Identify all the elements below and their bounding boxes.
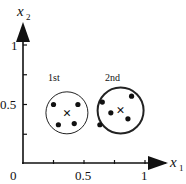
data-point — [100, 100, 105, 105]
y-tick-label-1: 1 — [11, 38, 18, 53]
data-point — [97, 122, 102, 127]
data-point — [72, 121, 77, 126]
centroid-marker-icon: × — [63, 105, 72, 121]
cluster-label-2nd: 2nd — [105, 72, 120, 83]
data-point — [56, 122, 61, 127]
data-point — [75, 102, 80, 107]
y-tick-label-0.5: 0.5 — [0, 97, 16, 112]
data-point — [51, 102, 56, 107]
centroid-marker-icon: × — [116, 102, 125, 118]
x-axis-arrow-icon — [148, 156, 168, 170]
x-tick-label-1: 1 — [141, 168, 148, 183]
origin-label: 0 — [10, 168, 17, 183]
cluster-label-1st: 1st — [48, 72, 60, 83]
data-point — [108, 110, 113, 115]
x-axis-label-subscript: 1 — [179, 163, 184, 173]
y-axis-label-subscript: 2 — [26, 12, 31, 22]
y-axis-label: x — [16, 3, 24, 19]
x-tick-label-0.5: 0.5 — [75, 168, 91, 183]
data-point — [125, 116, 130, 121]
data-point — [129, 94, 134, 99]
x-axis-label: x — [169, 154, 177, 170]
y-axis-arrow-icon — [16, 22, 30, 42]
cluster-diagram: x 2 x 1 0 0.5 1 0.5 1 1st 2nd ×× — [0, 0, 186, 184]
